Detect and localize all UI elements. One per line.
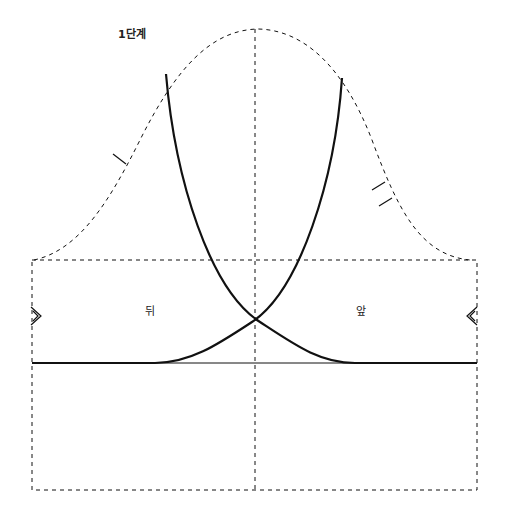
diagram-title: 1단계 [118,25,146,41]
notch-front-double-2 [379,198,392,206]
side-marker-right-icon [467,307,477,325]
pattern-diagram [0,0,506,523]
sleeve-cap-outline [34,29,470,260]
notch-front-double-1 [372,182,385,190]
front-armhole-curve [32,78,342,363]
back-armhole-curve [166,74,477,363]
side-marker-left-icon [31,307,41,325]
notch-back-single [113,154,126,164]
label-back: 뒤 [145,302,155,318]
label-front: 앞 [356,302,366,318]
